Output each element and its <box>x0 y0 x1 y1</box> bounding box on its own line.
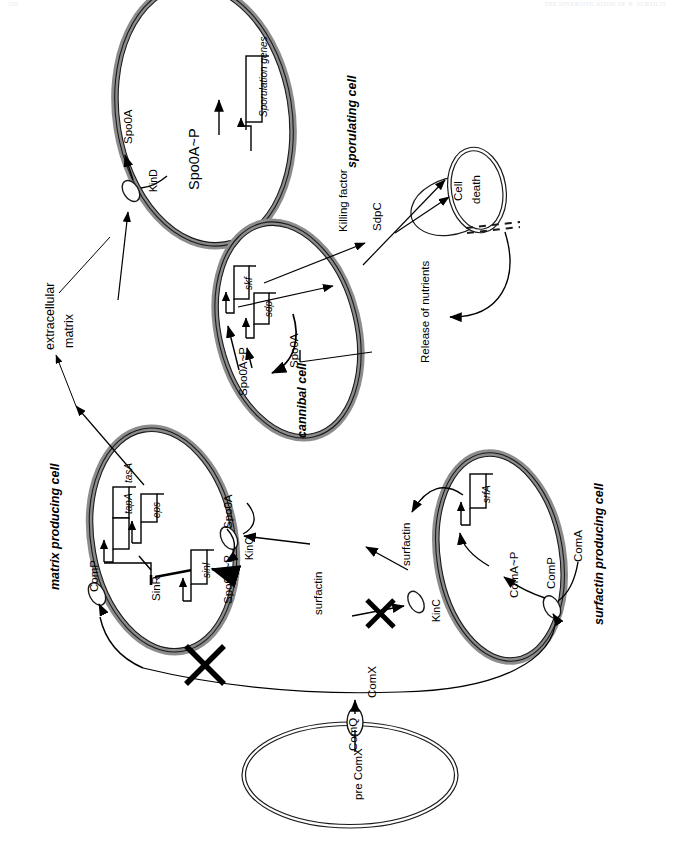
label-spo0a-cannibal: Spo0A <box>288 333 300 368</box>
label-spo0a-p-cannibal: Spo0A~P <box>237 347 249 396</box>
label-comp-matrix: ComP <box>88 560 100 592</box>
label-surfactin-producing-cell: surfactin producing cell <box>592 483 606 625</box>
label-coma: ComA <box>572 530 584 562</box>
label-spo0a-matrix: Spo0A <box>222 494 234 529</box>
cell-matrix <box>72 406 310 668</box>
label-cannibal-cell: cannibal cell <box>295 363 309 438</box>
label-tapa: tapA <box>123 493 134 514</box>
label-skf: skf <box>243 277 254 290</box>
label-sdp: sdp <box>263 301 274 317</box>
label-killing-factor: Killing factor <box>337 169 349 232</box>
label-srfa: srfA <box>481 485 492 503</box>
label-surfactin-free: surfactin <box>312 572 324 615</box>
label-extracellular: extracellular <box>43 283 57 350</box>
label-eps: eps <box>151 502 162 518</box>
label-pre-comx: pre ComX <box>352 748 364 800</box>
diagram-canvas <box>0 0 674 859</box>
label-sdpc: SdpC <box>371 202 383 231</box>
label-comq: ComQ <box>347 718 359 751</box>
blocked-marker-surfactin-kinc <box>367 600 394 627</box>
label-cell: Cell <box>452 181 464 201</box>
label-sporulating-cell: sporulating cell <box>345 76 359 168</box>
label-matrix-producing-cell: matrix producing cell <box>48 464 62 590</box>
blocked-marker-comx-matrix <box>186 646 224 684</box>
label-tasa: tasA <box>123 463 134 483</box>
label-kinc-surfactin: KinC <box>430 599 442 622</box>
label-matrix: matrix <box>62 314 76 348</box>
label-spo0a-sporulating: Spo0A <box>122 109 134 144</box>
label-spo0a-p-matrix: Spo0A~P <box>222 555 234 604</box>
label-coma-p: ComA~P <box>508 552 520 598</box>
label-surfactin-cell: surfactin <box>400 523 412 566</box>
label-kind: KinD <box>147 169 159 192</box>
label-kinc-matrix: KinC <box>243 537 255 560</box>
diagram-page: 220 THE DIVERSIFICATION OF B. SUBTILIS <box>0 0 674 859</box>
label-comp-surfactin: ComP <box>545 557 557 589</box>
label-sinr: SinR <box>150 576 162 601</box>
label-spo0a-p-sporulating: Spo0A~P <box>186 128 202 190</box>
label-comx: ComX <box>366 666 378 698</box>
label-sini: sinI <box>201 562 212 578</box>
label-sporulation-genes: Sporulation genes <box>258 36 269 117</box>
label-release-of-nutrients: Release of nutrients <box>419 261 431 363</box>
label-death: death <box>470 175 482 204</box>
cell-dying <box>363 143 520 317</box>
